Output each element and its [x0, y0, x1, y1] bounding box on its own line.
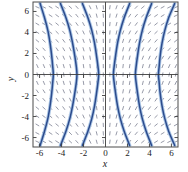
y-tick-label: 4	[0, 28, 29, 37]
y-tick-label: -6	[0, 133, 29, 142]
slope-segment	[83, 81, 84, 85]
slope-segment	[110, 5, 111, 9]
slope-segment	[110, 131, 111, 135]
y-tick-label: -2	[0, 91, 29, 100]
y-tick-label: -4	[0, 112, 29, 121]
y-axis-label: y	[6, 77, 16, 81]
slope-segment	[123, 81, 124, 85]
x-tick-label: 2	[125, 149, 130, 158]
slope-segment	[123, 64, 124, 68]
slope-segment	[110, 14, 111, 18]
y-tick-label: 2	[0, 49, 29, 58]
plot-canvas	[0, 0, 188, 172]
slope-field-figure: -6-4-20246 6420-2-4-6 x y	[0, 0, 188, 172]
x-tick-label: -6	[36, 149, 44, 158]
slope-segment	[96, 106, 97, 110]
y-tick-label: 6	[0, 7, 29, 16]
x-tick-label: -4	[58, 149, 66, 158]
slope-segment	[83, 64, 84, 68]
x-tick-label: 6	[169, 149, 174, 158]
x-tick-label: 0	[103, 149, 108, 158]
x-tick-label: -2	[80, 149, 88, 158]
x-axis-label: x	[103, 159, 107, 169]
x-tick-label: 4	[147, 149, 152, 158]
slope-segment	[96, 39, 97, 43]
slope-segment	[110, 140, 111, 144]
